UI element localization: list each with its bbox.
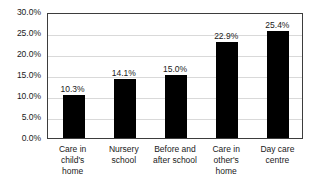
x-axis-category-line: Before and	[148, 144, 202, 155]
y-axis-tick-label: 25.0%	[0, 29, 41, 38]
x-axis-category-label: Nurseryschool	[97, 144, 151, 166]
bar[interactable]	[267, 31, 289, 138]
x-axis-category-line: home	[199, 166, 253, 177]
bar[interactable]	[114, 79, 136, 138]
x-axis-category-line: home	[46, 166, 100, 177]
bar-slot	[150, 14, 201, 138]
x-axis-category-label: Before andafter school	[148, 144, 202, 166]
y-axis-tick-label: 30.0%	[0, 8, 41, 17]
y-axis: 0.0%5.0%10.0%15.0%20.0%25.0%30.0%	[0, 0, 44, 193]
bar[interactable]	[216, 42, 238, 138]
x-axis-category-line: after school	[148, 155, 202, 166]
x-axis-category-line: school	[97, 155, 151, 166]
y-axis-tick-label: 20.0%	[0, 50, 41, 59]
y-axis-tick-label: 15.0%	[0, 71, 41, 80]
y-axis-tick-label: 0.0%	[0, 134, 41, 143]
y-axis-tick-label: 5.0%	[0, 113, 41, 122]
bar-chart: 0.0%5.0%10.0%15.0%20.0%25.0%30.0% 10.3%1…	[0, 0, 316, 193]
bar-data-label: 25.4%	[251, 20, 303, 30]
bar-data-label: 14.1%	[98, 68, 150, 78]
bar-data-label: 15.0%	[149, 64, 201, 74]
bar-series	[48, 14, 302, 138]
x-axis-category-label: Day carecentre	[250, 144, 304, 166]
bar-data-label: 10.3%	[47, 84, 99, 94]
y-axis-tick-label: 10.0%	[0, 92, 41, 101]
x-axis-category-line: centre	[250, 155, 304, 166]
x-axis-category-label: Care inchild'shome	[46, 144, 100, 177]
x-axis-category-label: Care inother'shome	[199, 144, 253, 177]
x-axis-category-line: Nursery	[97, 144, 151, 155]
bar[interactable]	[63, 95, 85, 138]
x-axis-category-line: other's	[199, 155, 253, 166]
x-axis-category-line: Day care	[250, 144, 304, 155]
bar-slot	[48, 14, 99, 138]
x-axis-category-line: Care in	[199, 144, 253, 155]
x-axis: Care inchild'shomeNurseryschoolBefore an…	[47, 144, 303, 193]
bar-slot	[253, 14, 304, 138]
plot-area	[47, 13, 303, 139]
x-axis-category-line: child's	[46, 155, 100, 166]
bar-data-label: 22.9%	[200, 31, 252, 41]
x-axis-category-line: Care in	[46, 144, 100, 155]
bar[interactable]	[165, 75, 187, 138]
